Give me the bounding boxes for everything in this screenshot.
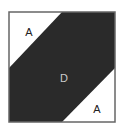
label-top-left: A bbox=[25, 26, 33, 38]
diagonal-square-diagram: A D A bbox=[0, 0, 125, 128]
label-bottom-right: A bbox=[93, 103, 101, 115]
label-center: D bbox=[60, 72, 68, 84]
